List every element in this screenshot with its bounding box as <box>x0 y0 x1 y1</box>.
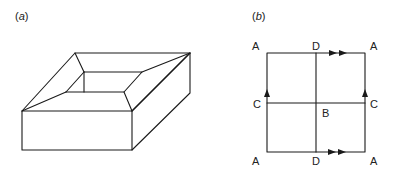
label-top-right: A <box>370 40 378 52</box>
label-mid-left: C <box>253 98 261 110</box>
outer-top-rim <box>22 53 190 111</box>
arrow-top-2-icon <box>339 50 347 56</box>
identification-square <box>264 50 368 155</box>
label-bottom-left: A <box>252 155 260 167</box>
inner-hole-rim <box>66 72 142 92</box>
label-top-left: A <box>252 40 260 52</box>
inner-wall-diag <box>66 72 84 92</box>
figure-canvas: (a) (b) A D A C <box>0 0 393 172</box>
panel-b-label: (b) <box>252 10 265 22</box>
arrow-top-1-icon <box>329 50 337 56</box>
label-mid-right: C <box>370 98 378 110</box>
bevel-back-left <box>75 53 84 72</box>
bevel-back-right <box>142 53 190 72</box>
label-center: B <box>322 107 329 119</box>
arrow-bottom-1-icon <box>328 149 336 155</box>
front-face <box>22 111 132 150</box>
bevel-front-left <box>22 92 66 111</box>
label-bottom-right: A <box>370 155 378 167</box>
label-bottom-mid: D <box>312 155 320 167</box>
arrow-bottom-2-icon <box>338 149 346 155</box>
label-top-mid: D <box>312 40 320 52</box>
frame-perspective-drawing <box>22 53 190 150</box>
right-side-face <box>132 53 190 150</box>
panel-a-label: (a) <box>15 10 28 22</box>
bevel-front-right <box>124 92 132 111</box>
arrow-left-up-icon <box>264 89 270 97</box>
arrow-right-up-icon <box>362 89 368 97</box>
